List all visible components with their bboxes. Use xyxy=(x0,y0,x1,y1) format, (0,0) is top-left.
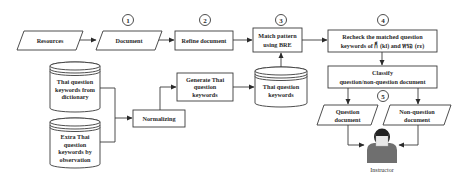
non-question-document-node: Non-question document xyxy=(383,105,451,125)
match-pattern-node: Match pattern using BRE xyxy=(253,28,302,52)
step-5-marker: 5 xyxy=(378,91,389,102)
svg-text:Classify: Classify xyxy=(372,69,394,76)
svg-text:Non-question: Non-question xyxy=(399,108,435,115)
svg-text:keywords by: keywords by xyxy=(58,148,92,155)
svg-text:Instructor: Instructor xyxy=(370,167,393,173)
edge-nonquestion-instructor xyxy=(399,125,418,145)
question-document-node: Question document xyxy=(317,105,378,125)
generate-keywords-node: Generate Thai question keywords xyxy=(177,73,233,101)
flow-diagram: 1 2 3 4 5 Resources Document Refine docu… xyxy=(0,0,465,179)
svg-text:question: question xyxy=(64,141,87,148)
extra-keywords-database: Extra Thai question keywords by observat… xyxy=(50,118,100,168)
svg-text:keywords of ก็ (kl) and หรอ (r: keywords of ก็ (kl) and หรอ (rɛ) xyxy=(341,41,425,50)
dictionary-keywords-database: Thai question keywords from dictionary xyxy=(50,62,100,112)
svg-text:document: document xyxy=(334,116,361,123)
resources-node: Resources xyxy=(17,31,83,50)
svg-text:using BRE: using BRE xyxy=(263,41,291,48)
connectors xyxy=(78,40,418,145)
step-1-marker: 1 xyxy=(123,15,134,26)
refine-document-node: Refine document xyxy=(175,31,233,50)
edge-normalizing-generate xyxy=(160,87,176,110)
svg-text:Thai question: Thai question xyxy=(57,78,94,85)
edge-question-instructor xyxy=(348,125,364,145)
thai-keywords-database: Thai question keywords xyxy=(255,67,307,107)
step-3-marker: 3 xyxy=(276,15,287,26)
svg-text:Thai question: Thai question xyxy=(263,83,300,90)
person-icon xyxy=(367,129,397,164)
svg-text:keywords: keywords xyxy=(192,91,218,98)
svg-text:2: 2 xyxy=(203,17,207,25)
svg-text:Question: Question xyxy=(336,108,360,115)
svg-text:question: question xyxy=(194,83,217,90)
svg-text:dictionary: dictionary xyxy=(61,93,89,100)
document-node: Document xyxy=(96,31,162,50)
recheck-node: Recheck the matched question keywords of… xyxy=(328,30,437,52)
step-4-marker: 4 xyxy=(378,15,389,26)
svg-text:Resources: Resources xyxy=(37,37,64,44)
svg-text:Extra Thai: Extra Thai xyxy=(61,133,90,140)
edge-dbs-merge xyxy=(100,88,115,142)
svg-text:keywords: keywords xyxy=(268,91,294,98)
svg-text:4: 4 xyxy=(381,17,385,25)
svg-text:Refine document: Refine document xyxy=(182,37,228,44)
classify-node: Classify question/non-question document xyxy=(328,66,437,88)
svg-text:document: document xyxy=(404,116,431,123)
instructor-actor: Instructor xyxy=(367,129,397,174)
svg-text:Match pattern: Match pattern xyxy=(258,32,297,39)
svg-text:keywords from: keywords from xyxy=(55,86,96,93)
svg-text:Normalizing: Normalizing xyxy=(143,115,177,122)
step-2-marker: 2 xyxy=(200,15,211,26)
svg-text:Generate Thai: Generate Thai xyxy=(186,76,224,83)
svg-text:3: 3 xyxy=(279,17,283,25)
normalizing-node: Normalizing xyxy=(133,110,185,127)
svg-text:Document: Document xyxy=(115,37,143,44)
svg-text:Recheck the matched question: Recheck the matched question xyxy=(342,33,423,40)
svg-text:1: 1 xyxy=(126,17,130,25)
svg-text:question/non-question document: question/non-question document xyxy=(339,78,426,85)
svg-text:5: 5 xyxy=(381,93,385,101)
svg-text:observation: observation xyxy=(60,156,91,163)
